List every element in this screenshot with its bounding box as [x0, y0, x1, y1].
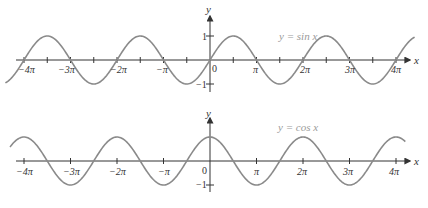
cosine-origin-label: 0 — [202, 165, 207, 176]
cosine-y-bottom-label: −1 — [196, 179, 207, 190]
cosine-plot: −4π −3π −2π −π π 2π 3π 4π 0 −1 y x y = c… — [10, 107, 419, 192]
cosine-tick-label: −4π — [16, 166, 34, 177]
cosine-title: y = cos x — [277, 121, 318, 133]
cosine-labels: −4π −3π −2π −π π 2π 3π 4π 0 −1 y x y = c… — [16, 107, 419, 190]
sine-tick-label: −π — [156, 64, 169, 75]
cosine-tick-label: −2π — [109, 166, 127, 177]
trig-graphs: −4π −3π −2π −π π 2π 3π 4π 0 1 −1 y x y =… — [0, 0, 428, 208]
cosine-tick-label: π — [254, 166, 260, 177]
sine-tick-label: −4π — [18, 64, 36, 75]
sine-tick-label: 3π — [344, 64, 356, 75]
sine-tick-label: 2π — [300, 64, 311, 75]
cosine-tick-label: −π — [158, 166, 171, 177]
sine-tick-label: −2π — [110, 64, 128, 75]
sine-y-axis-name: y — [205, 3, 211, 15]
cosine-x-axis-name: x — [413, 155, 419, 167]
cosine-tick-label: −3π — [63, 166, 81, 177]
cosine-tick-label: 4π — [389, 166, 400, 177]
sine-x-axis-name: x — [413, 54, 419, 66]
sine-tick-label: π — [253, 64, 259, 75]
cosine-tick-label: 2π — [297, 166, 308, 177]
sine-tick-label: 4π — [391, 64, 402, 75]
sine-y-bottom-label: −1 — [196, 79, 207, 90]
sine-title: y = sin x — [278, 30, 317, 42]
cosine-tick-label: 3π — [342, 166, 354, 177]
cosine-y-axis-name: y — [205, 107, 211, 119]
sine-plot: −4π −3π −2π −π π 2π 3π 4π 0 1 −1 y x y =… — [5, 3, 419, 92]
sine-tick-label: −3π — [58, 64, 76, 75]
sine-origin-label: 0 — [212, 63, 217, 74]
